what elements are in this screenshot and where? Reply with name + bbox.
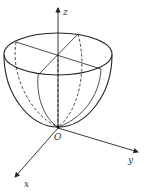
y-axis-label: y — [127, 155, 134, 165]
hemisphere-diagram: z y x O — [0, 0, 146, 196]
origin-label: O — [54, 132, 62, 142]
x-axis — [15, 128, 58, 177]
x-axis-label: x — [24, 179, 29, 189]
z-axis-label: z — [62, 7, 68, 17]
meridian-back-left — [15, 42, 58, 127]
origin-point — [56, 125, 59, 128]
rim-chord-1 — [16, 42, 101, 69]
y-axis — [58, 128, 138, 152]
meridian-front-left — [38, 75, 58, 127]
meridian-back-right — [58, 34, 82, 127]
meridian-front-right — [58, 69, 101, 127]
